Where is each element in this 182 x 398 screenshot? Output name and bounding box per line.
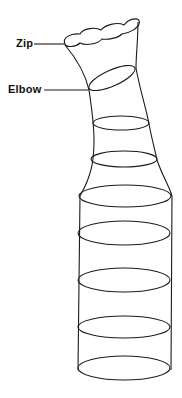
ring-2 (91, 151, 157, 167)
ring-7-bottom (78, 356, 170, 380)
ring-6 (78, 316, 170, 338)
tube-left-outline (65, 45, 94, 370)
elbow-label: Elbow (8, 83, 41, 95)
tube-drawing (0, 0, 182, 398)
zip-scalloped-top (64, 19, 139, 47)
ring-5 (78, 268, 170, 292)
ring-3 (79, 185, 171, 207)
tube-diagram: Zip Elbow (0, 0, 182, 398)
ring-4 (78, 221, 170, 245)
zip-label: Zip (16, 37, 33, 49)
tube-right-outline (136, 22, 172, 370)
ring-1 (93, 116, 149, 130)
elbow-ring (86, 61, 138, 96)
